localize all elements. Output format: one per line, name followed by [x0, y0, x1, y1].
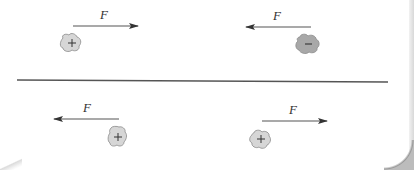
charge-top-right-icon [296, 34, 319, 53]
charge-bottom-right-icon [250, 130, 271, 148]
force-diagram [0, 0, 414, 170]
force-label-top-left: F [100, 7, 108, 23]
force-label-bottom-right: F [289, 102, 297, 118]
charge-top-left-icon [60, 34, 80, 52]
page-corner-curl [384, 140, 414, 170]
force-label-top-right: F [273, 8, 281, 24]
page-edge-shadow [409, 0, 414, 155]
charge-bottom-left-icon [108, 126, 126, 146]
force-label-bottom-left: F [83, 100, 91, 116]
divider-line [17, 80, 388, 82]
diagram-page: F F F F [0, 0, 414, 170]
page-corner-shadow [0, 154, 22, 170]
